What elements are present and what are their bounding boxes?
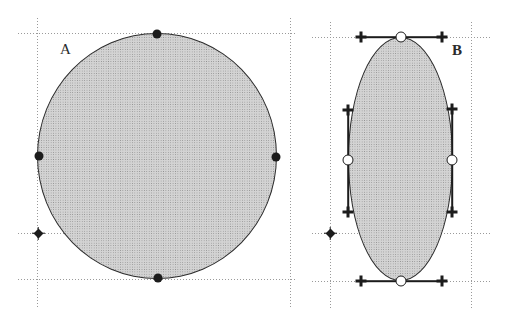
- origin-marker-a[interactable]: [32, 227, 45, 240]
- node-b-bottom[interactable]: [396, 276, 407, 287]
- panel-label-a: A: [60, 41, 71, 58]
- node-b-right[interactable]: [447, 155, 458, 166]
- handle-b-bottom-left[interactable]: [356, 276, 367, 287]
- node-b-top[interactable]: [396, 32, 407, 43]
- node-a-bottom[interactable]: [154, 274, 163, 283]
- guide-vertical-b-left[interactable]: [330, 22, 331, 308]
- node-a-left[interactable]: [35, 152, 44, 161]
- handle-b-left-bottom[interactable]: [343, 207, 354, 218]
- handle-b-top-left[interactable]: [356, 32, 367, 43]
- handle-b-top-right[interactable]: [437, 32, 448, 43]
- handle-b-right-bottom[interactable]: [447, 207, 458, 218]
- node-b-left[interactable]: [343, 155, 354, 166]
- guide-vertical-b-right[interactable]: [471, 22, 472, 308]
- node-a-top[interactable]: [153, 30, 162, 39]
- handle-b-right-top[interactable]: [447, 104, 458, 115]
- guide-vertical-a-right[interactable]: [290, 18, 291, 308]
- drawing-canvas[interactable]: A B: [0, 0, 510, 312]
- handle-b-left-top[interactable]: [343, 105, 354, 116]
- panel-label-b: B: [452, 42, 463, 59]
- origin-marker-b[interactable]: [324, 227, 337, 240]
- shape-ellipse-b[interactable]: [348, 37, 453, 281]
- node-a-right[interactable]: [272, 153, 281, 162]
- shape-circle-a[interactable]: [37, 33, 277, 279]
- handle-b-bottom-right[interactable]: [437, 276, 448, 287]
